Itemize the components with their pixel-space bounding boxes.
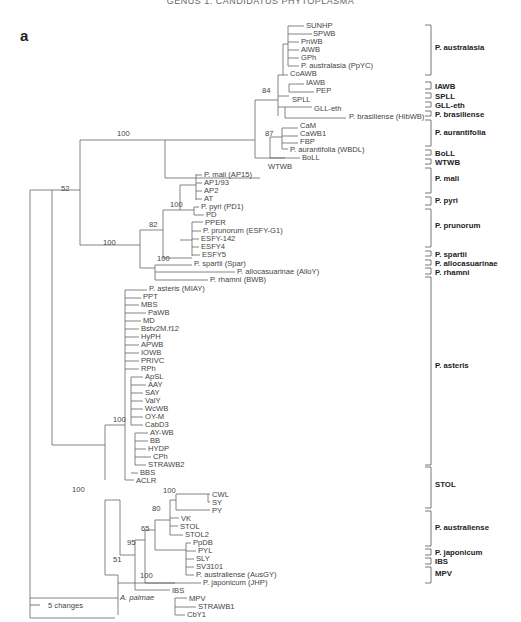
group-label: STOL [435,480,456,489]
group-bracket [425,467,431,508]
tip-label: P. japonicum (JHP) [203,578,268,587]
bootstrap-value: 51 [113,555,121,564]
group-bracket [425,511,431,546]
tip-label: IBS [172,586,184,595]
group-label: P. prunorum [435,221,480,230]
tip-label: BoLL [302,153,320,162]
bootstrap-value: 100 [103,238,116,247]
group-label: P. aurantifolia [435,128,486,137]
bootstrap-value: 87 [265,129,273,138]
bootstrap-value: 100 [117,129,130,138]
group-brackets: P. australasiaIAWBSPLLGLL-ethP. brasilie… [425,25,498,583]
group-bracket [425,251,431,256]
group-label: MPV [435,569,453,578]
bootstrap-value: 65 [141,524,149,533]
tip-label: P. rhamni (BWB) [210,275,266,284]
group-label: WTWB [435,158,460,167]
group-bracket [425,102,431,107]
tip-label: P. brasiliense (HibWB) [349,112,425,121]
group-label: IAWB [435,82,456,91]
group-label: P. pyri [435,196,458,205]
group-label: P. asteris [435,361,469,370]
group-label: P. mali [435,174,459,183]
group-bracket [425,268,431,274]
group-bracket [425,549,431,555]
tip-label: ESFY5 [202,250,226,259]
group-label: P. brasiliense [435,110,485,119]
bootstrap-value: 100 [72,485,85,494]
bootstrap-value: 52 [61,184,69,193]
group-label: P. japonicum [435,548,483,557]
bootstrap-value: 95 [127,538,135,547]
tip-label: CoAWB [290,69,317,78]
group-bracket [425,260,431,265]
tip-label: GLL-eth [314,104,341,113]
tip-label: PEP [316,86,331,95]
tip-label: WTWB [268,162,292,171]
scale-bar-label: 5 changes [48,601,83,610]
scale-bar: 5 changes [30,601,83,610]
group-bracket [425,93,431,98]
group-bracket [425,82,431,89]
bootstrap-value: 84 [262,86,270,95]
tip-label: CbY1 [187,610,206,619]
group-label: BoLL [435,149,455,158]
group-label: P. allocasuarinae [435,259,498,268]
group-bracket [425,150,431,155]
group-label: P. rhamni [435,268,470,277]
group-label: P. australiense [435,523,490,532]
bootstrap-value: 100 [157,254,170,263]
group-bracket [425,111,431,116]
group-bracket [425,567,431,583]
bootstrap-value: 82 [149,220,157,229]
tip-label: SPLL [292,95,311,104]
bootstrap-value: 100 [140,571,153,580]
bootstrap-value: 80 [152,504,160,513]
group-bracket [425,558,431,564]
group-bracket [425,159,431,164]
bootstrap-value: 100 [163,486,176,495]
group-label: P. spartii [435,250,467,259]
group-bracket [425,168,431,193]
group-label: IBS [435,557,448,566]
group-bracket [425,197,431,205]
group-label: SPLL [435,92,455,101]
group-bracket [425,209,431,247]
bootstrap-values: 8410087528210010010010010010080659551100 [61,86,273,580]
group-bracket [425,120,431,146]
tip-label: ACLR [136,476,157,485]
tip-labels: SUNHPSPWBPnWBAlWBGPhP. australasia (PpYC… [136,21,425,619]
phylogenetic-tree: SUNHPSPWBPnWBAlWBGPhP. australasia (PpYC… [0,0,521,622]
tip-label: PY [212,506,222,515]
group-label: GLL-eth [435,101,465,110]
group-label: P. australasia [435,43,485,52]
bootstrap-value: 100 [113,415,126,424]
outgroup-label: A. palmae [119,593,154,602]
bootstrap-value: 100 [170,200,183,209]
group-bracket [425,25,431,75]
group-bracket [425,277,431,465]
